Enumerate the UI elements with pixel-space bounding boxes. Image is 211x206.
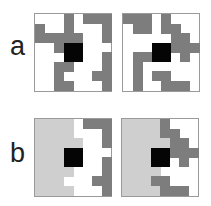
light-cell — [151, 186, 161, 196]
dark-cell — [64, 14, 74, 24]
light-cell — [54, 186, 64, 196]
dark-cell — [54, 43, 64, 53]
light-cell — [45, 176, 55, 186]
light-cell — [64, 167, 74, 177]
dark-cell — [102, 157, 112, 167]
light-cell — [141, 157, 151, 167]
dark-cell — [171, 24, 181, 34]
light-cell — [132, 119, 142, 129]
light-cell — [35, 138, 45, 148]
light-cell — [151, 167, 161, 177]
light-cell — [132, 167, 142, 177]
light-cell — [54, 167, 64, 177]
center-cell — [64, 157, 74, 167]
light-cell — [141, 186, 151, 196]
dark-cell — [161, 14, 171, 24]
light-cell — [151, 119, 161, 129]
light-cell — [141, 138, 151, 148]
dark-cell — [179, 148, 189, 158]
dark-cell — [102, 33, 112, 43]
dark-cell — [160, 176, 170, 186]
center-cell — [160, 148, 170, 158]
light-cell — [122, 138, 132, 148]
light-cell — [54, 119, 64, 129]
center-cell — [73, 148, 83, 158]
light-cell — [54, 138, 64, 148]
light-cell — [122, 167, 132, 177]
dark-cell — [142, 14, 152, 24]
light-cell — [64, 186, 74, 196]
light-cell — [54, 157, 64, 167]
dark-cell — [142, 24, 152, 34]
light-cell — [45, 138, 55, 148]
light-cell — [54, 129, 64, 139]
dark-cell — [190, 43, 200, 53]
dark-cell — [102, 52, 112, 62]
dark-cell — [92, 176, 102, 186]
dark-cell — [54, 71, 64, 81]
dark-cell — [54, 62, 64, 72]
dark-cell — [102, 129, 112, 139]
dark-cell — [161, 81, 171, 91]
light-cell — [35, 129, 45, 139]
dark-cell — [133, 81, 143, 91]
center-cell — [73, 52, 83, 62]
light-cell — [141, 176, 151, 186]
dark-cell — [45, 33, 55, 43]
dark-cell — [180, 43, 190, 53]
light-cell — [151, 129, 161, 139]
dark-cell — [161, 24, 171, 34]
light-cell — [141, 119, 151, 129]
dark-cell — [102, 176, 112, 186]
dark-cell — [161, 71, 171, 81]
light-cell — [45, 157, 55, 167]
center-cell — [64, 148, 74, 158]
dark-cell — [179, 138, 189, 148]
dark-cell — [54, 33, 64, 43]
center-cell — [73, 157, 83, 167]
dark-cell — [179, 157, 189, 167]
light-cell — [160, 138, 170, 148]
dark-cell — [152, 71, 162, 81]
dark-cell — [142, 52, 152, 62]
light-cell — [35, 176, 45, 186]
dark-cell — [102, 81, 112, 91]
light-cell — [132, 176, 142, 186]
light-cell — [35, 186, 45, 196]
dark-cell — [64, 81, 74, 91]
dark-cell — [160, 129, 170, 139]
light-cell — [54, 176, 64, 186]
dark-cell — [171, 33, 181, 43]
dark-cell — [35, 24, 45, 34]
light-cell — [122, 157, 132, 167]
light-cell — [122, 186, 132, 196]
dark-cell — [102, 14, 112, 24]
light-cell — [132, 129, 142, 139]
dark-cell — [64, 33, 74, 43]
light-cell — [122, 148, 132, 158]
light-cell — [64, 119, 74, 129]
light-cell — [122, 176, 132, 186]
dark-cell — [102, 138, 112, 148]
dark-cell — [102, 186, 112, 196]
light-cell — [35, 157, 45, 167]
center-cell — [64, 52, 74, 62]
panel-a-left — [34, 13, 112, 92]
dark-cell — [123, 14, 133, 24]
light-cell — [122, 129, 132, 139]
light-cell — [45, 119, 55, 129]
light-cell — [45, 186, 55, 196]
light-cell — [151, 138, 161, 148]
dark-cell — [102, 24, 112, 34]
center-cell — [64, 43, 74, 53]
light-cell — [64, 138, 74, 148]
dark-cell — [54, 81, 64, 91]
dark-cell — [171, 43, 181, 53]
dark-cell — [180, 33, 190, 43]
dark-cell — [171, 81, 181, 91]
light-cell — [122, 119, 132, 129]
dark-cell — [133, 52, 143, 62]
dark-cell — [83, 119, 93, 129]
light-cell — [64, 129, 74, 139]
dark-cell — [64, 62, 74, 72]
